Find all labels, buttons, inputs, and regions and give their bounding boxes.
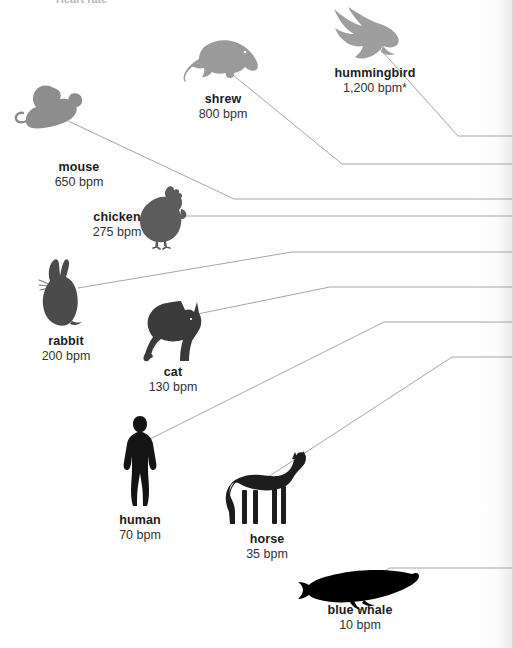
label-shrew: shrew 800 bpm	[163, 92, 283, 123]
shrew-figure	[183, 38, 261, 86]
infographic-canvas: Heart rate	[0, 0, 513, 648]
chicken-bpm: 275 bpm	[62, 225, 172, 240]
mouse-figure	[14, 82, 90, 134]
mouse-silhouette	[14, 82, 90, 134]
rabbit-name: rabbit	[11, 334, 121, 349]
leader-line-rabbit	[78, 252, 513, 288]
blue-whale-bpm: 10 bpm	[298, 618, 422, 633]
shrew-silhouette	[183, 38, 261, 86]
cat-bpm: 130 bpm	[120, 380, 226, 395]
label-rabbit: rabbit 200 bpm	[11, 334, 121, 365]
cat-figure	[142, 297, 204, 365]
cat-name: cat	[120, 365, 226, 380]
label-hummingbird: hummingbird 1,200 bpm*	[310, 66, 440, 97]
rabbit-silhouette	[36, 258, 86, 328]
rabbit-bpm: 200 bpm	[11, 349, 121, 364]
human-silhouette	[118, 415, 162, 507]
label-blue-whale: blue whale 10 bpm	[298, 603, 422, 634]
human-figure	[118, 415, 162, 507]
horse-figure	[225, 450, 309, 528]
human-bpm: 70 bpm	[88, 528, 192, 543]
shrew-bpm: 800 bpm	[163, 107, 283, 122]
rabbit-figure	[36, 258, 86, 328]
horse-name: horse	[215, 532, 319, 547]
hummingbird-figure	[328, 6, 408, 64]
mouse-name: mouse	[19, 160, 139, 175]
horse-bpm: 35 bpm	[215, 547, 319, 562]
label-cat: cat 130 bpm	[120, 365, 226, 396]
blue-whale-name: blue whale	[298, 603, 422, 618]
mouse-bpm: 650 bpm	[19, 175, 139, 190]
label-horse: horse 35 bpm	[215, 532, 319, 563]
cat-silhouette	[142, 297, 204, 365]
leader-line-cat	[178, 287, 513, 318]
horse-silhouette	[225, 450, 309, 528]
hummingbird-bpm: 1,200 bpm*	[310, 81, 440, 96]
label-chicken: chicken 275 bpm	[62, 210, 172, 241]
label-mouse: mouse 650 bpm	[19, 160, 139, 191]
chicken-name: chicken	[62, 210, 172, 225]
shrew-name: shrew	[163, 92, 283, 107]
human-name: human	[88, 513, 192, 528]
hummingbird-silhouette	[328, 6, 408, 64]
label-human: human 70 bpm	[88, 513, 192, 544]
hummingbird-name: hummingbird	[310, 66, 440, 81]
